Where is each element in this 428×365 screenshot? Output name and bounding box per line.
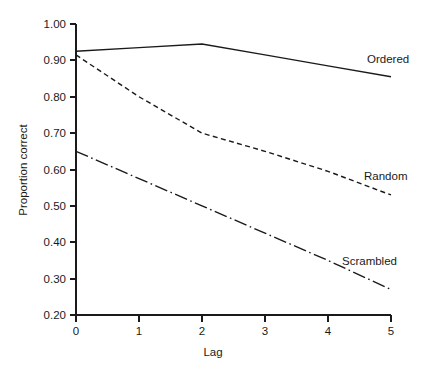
series-line-random [76, 55, 391, 195]
x-tick-label: 5 [388, 325, 394, 337]
y-axis-ticks [70, 24, 76, 315]
y-tick-label: 0.30 [44, 273, 66, 285]
x-tick-label: 1 [136, 325, 142, 337]
x-tick-label: 4 [325, 325, 332, 337]
series-label-scrambled: Scrambled [342, 255, 397, 267]
y-tick-label: 1.00 [44, 18, 66, 30]
y-tick-label: 0.90 [44, 54, 66, 66]
series-label-random: Random [364, 170, 407, 182]
x-axis-tick-labels: 0 1 2 3 4 5 [73, 325, 394, 337]
line-chart-figure: 1.00 0.90 0.80 0.70 0.60 0.50 0.40 0.30 … [0, 0, 428, 365]
y-tick-label: 0.50 [44, 200, 66, 212]
x-axis-ticks [76, 315, 391, 322]
y-tick-label: 0.60 [44, 164, 66, 176]
series-line-scrambled [76, 151, 391, 289]
y-tick-label: 0.40 [44, 236, 66, 248]
y-tick-label: 0.70 [44, 127, 66, 139]
y-axis-tick-labels: 1.00 0.90 0.80 0.70 0.60 0.50 0.40 0.30 … [44, 18, 66, 321]
x-tick-label: 2 [199, 325, 205, 337]
series-label-ordered: Ordered [367, 53, 409, 65]
y-tick-label: 0.80 [44, 91, 66, 103]
x-tick-label: 0 [73, 325, 79, 337]
y-tick-label: 0.20 [44, 309, 66, 321]
x-axis-title: Lag [203, 346, 222, 358]
series-line-ordered [76, 44, 391, 77]
chart-svg: 1.00 0.90 0.80 0.70 0.60 0.50 0.40 0.30 … [0, 0, 428, 365]
x-tick-label: 3 [262, 325, 268, 337]
y-axis-title: Proportion correct [17, 123, 29, 215]
